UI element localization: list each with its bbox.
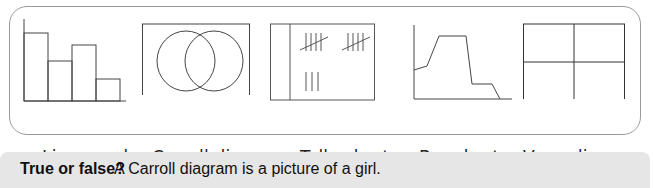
carroll-diagram-icon xyxy=(523,19,627,99)
question-prompt: True or false? xyxy=(20,160,125,178)
tally-chart-icon xyxy=(270,19,376,103)
bar-chart-figure xyxy=(22,19,128,103)
tally-chart-figure xyxy=(270,19,376,103)
question-statement: A Carroll diagram is a picture of a girl… xyxy=(114,160,381,178)
line-graph-figure xyxy=(412,19,512,103)
bar-chart-icon xyxy=(22,19,128,103)
venn-diagram-icon xyxy=(142,19,252,95)
carroll-diagram-figure xyxy=(523,19,627,99)
line-graph-icon xyxy=(412,19,512,103)
venn-diagram-figure xyxy=(142,19,252,95)
